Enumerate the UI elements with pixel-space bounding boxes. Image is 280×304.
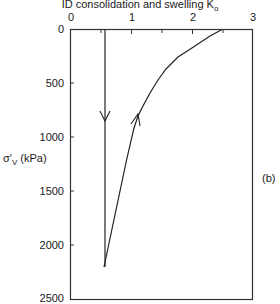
plot-frame bbox=[71, 30, 253, 300]
swelling-curve bbox=[104, 30, 222, 268]
plot-area bbox=[0, 0, 280, 304]
x-axis-ticks bbox=[101, 30, 223, 35]
